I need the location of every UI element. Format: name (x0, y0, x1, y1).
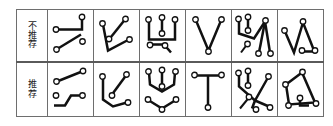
label-char-2: 荐 (28, 90, 37, 99)
cell-r-2 (94, 62, 140, 117)
cell-r-3 (140, 62, 186, 117)
cell-r-4 (186, 62, 232, 117)
diagram-hook-with-slope (94, 63, 139, 116)
comparison-table: 不 推 荐 (16, 9, 324, 117)
cell-nr-4 (186, 10, 232, 63)
diagram-closed-polygon (278, 63, 323, 116)
figure-root: 不 推 荐 (0, 0, 333, 126)
cell-r-6 (278, 62, 324, 117)
cell-nr-3 (140, 10, 186, 63)
cell-nr-2 (94, 10, 140, 63)
cell-r-5 (232, 62, 278, 117)
vertical-label-text: 不 推 荐 (17, 22, 47, 50)
diagram-v-shape (186, 10, 231, 61)
row-label-not-recommended: 不 推 荐 (17, 10, 48, 63)
diagram-peak-with-baseline (278, 10, 323, 61)
table-row-recommended: 推 荐 (17, 62, 324, 117)
diagram-double-cup (140, 63, 185, 116)
cell-nr-1 (48, 10, 94, 63)
diagram-u-shape-with-drop (140, 10, 185, 61)
comparison-table-wrapper: 不 推 荐 (16, 9, 316, 115)
diagram-step-with-slope (48, 63, 93, 116)
diagram-tee-shape (186, 63, 231, 116)
row-label-recommended: 推 荐 (17, 62, 48, 117)
label-char-3: 荐 (28, 40, 37, 49)
diagram-check-mark (94, 10, 139, 61)
cell-nr-6 (278, 10, 324, 63)
diagram-double-peak-cluster (232, 10, 277, 61)
diagram-zigzag-with-stub (48, 10, 93, 61)
cell-r-1 (48, 62, 94, 117)
diagram-branching-arms (232, 63, 277, 116)
vertical-label-text: 推 荐 (17, 80, 47, 98)
cell-nr-5 (232, 10, 278, 63)
table-row-not-recommended: 不 推 荐 (17, 10, 324, 63)
